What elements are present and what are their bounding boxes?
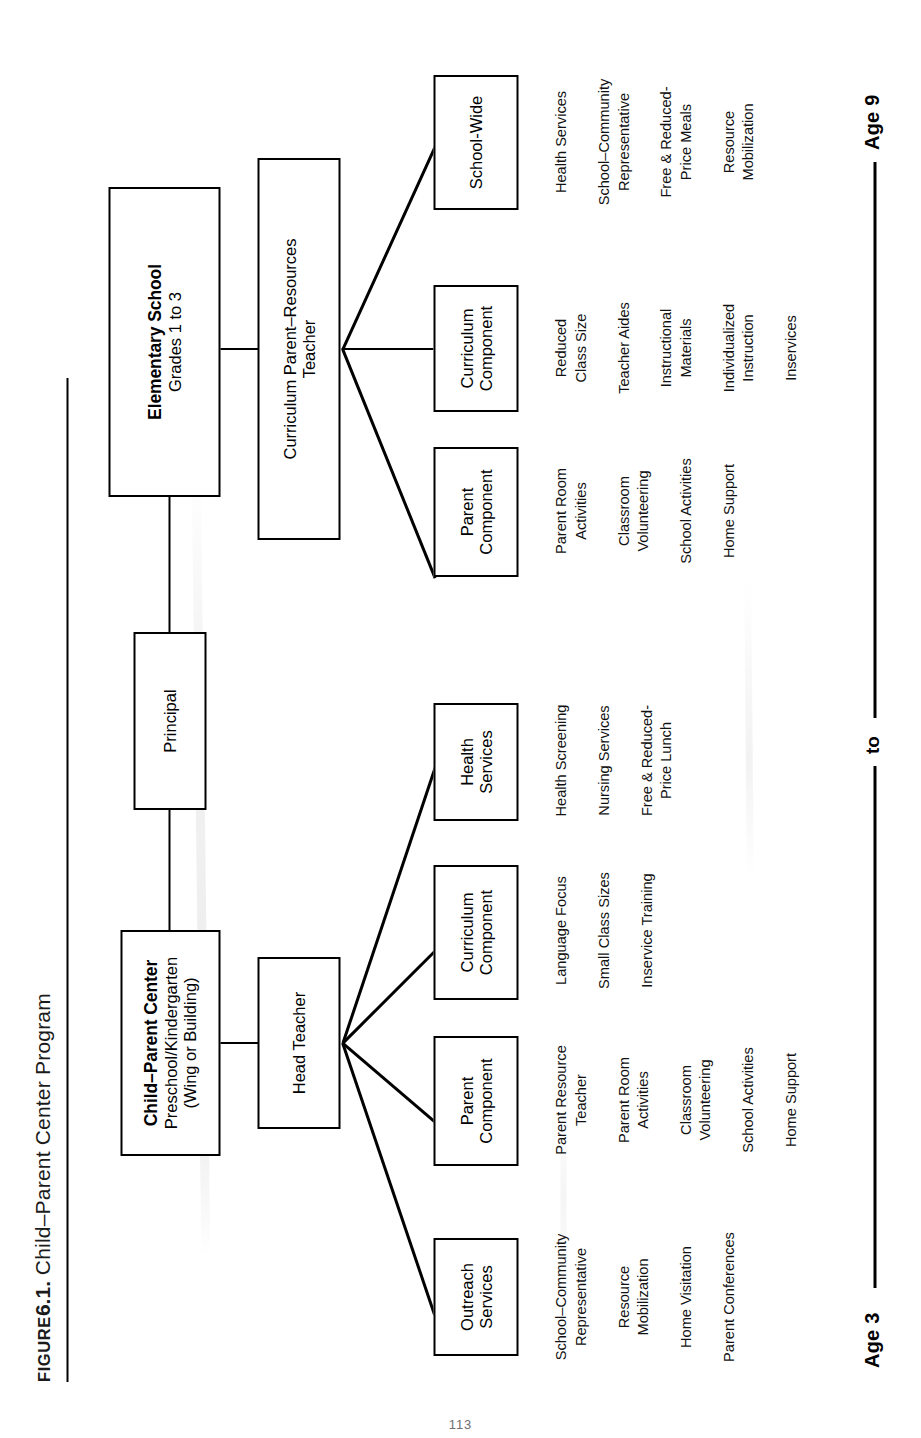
curriculum-component-elementary-details: Reduced Class Size Teacher Aides Instruc… (532, 262, 824, 434)
node-parent-component-elementary: Parent Component (433, 447, 518, 577)
connector-crt-curriculum-component (341, 348, 433, 350)
node-outreach-services: Outreach Services (433, 1238, 518, 1356)
principal-title: Principal (160, 689, 179, 752)
detail-item: Reduced Class Size (551, 262, 590, 434)
cpc-subtitle-1: Preschool/Kindergarten (161, 957, 180, 1129)
parent-component-elementary-details: Parent Room Activities Classroom Volunte… (532, 420, 761, 602)
detail-item: Classroom Volunteering (614, 420, 653, 602)
node-health-services: Health Services (433, 703, 518, 821)
age-end-label: Age 9 (860, 95, 883, 150)
outreach-services-title-2: Services (476, 1265, 495, 1328)
detail-item: School–Community Representative (551, 1202, 590, 1392)
figure-number: 6.1. (30, 1281, 53, 1316)
scan-artifact (744, 578, 754, 878)
connector-crt-school-wide (341, 146, 436, 350)
connector-elementary-crt (220, 348, 258, 350)
detail-item: Health Services (551, 48, 570, 236)
connector-crt-parent-component (341, 349, 436, 579)
parent-component-cpc-details: Parent Resource Teacher Parent Room Acti… (532, 1007, 824, 1193)
elementary-title: Elementary School (145, 264, 165, 420)
detail-item: Language Focus (551, 843, 570, 1018)
detail-item: Parent Room Activities (614, 1007, 653, 1193)
node-school-wide: School-Wide (433, 75, 518, 210)
timeline-segment-right (873, 162, 876, 718)
detail-item: Individualized Instruction (719, 262, 758, 434)
cpc-subtitle-2: (Wing or Building) (180, 977, 199, 1108)
detail-item: Classroom Volunteering (676, 1007, 715, 1193)
node-curriculum-parent-resources-teacher: Curriculum Parent–Resources Teacher (257, 158, 340, 540)
cpc-title: Child–Parent Center (141, 960, 161, 1126)
node-child-parent-center: Child–Parent Center Preschool/Kindergart… (120, 930, 220, 1156)
figure-caption-text: Child–Parent Center Program (30, 993, 53, 1275)
parent-component-elem-title-1: Parent (457, 488, 476, 537)
detail-item: Inservices (781, 262, 800, 434)
curriculum-component-elem-title-1: Curriculum (457, 309, 476, 389)
detail-item: Nursing Services (594, 678, 613, 843)
node-principal: Principal (133, 632, 206, 810)
parent-component-cpc-title-2: Component (476, 1058, 495, 1143)
detail-item: Inservice Training (637, 843, 656, 1018)
caption-rule (66, 378, 68, 1382)
detail-item: Parent Conferences (719, 1202, 738, 1392)
school-wide-details: Health Services School–Community Represe… (532, 48, 781, 236)
curriculum-component-cpc-title-2: Component (476, 890, 495, 975)
detail-item: Instructional Materials (656, 262, 695, 434)
age-timeline: Age 3 to Age 9 (860, 68, 890, 1368)
detail-item: Home Visitation (676, 1202, 695, 1392)
crt-title-line-2: Teacher (299, 320, 318, 379)
curriculum-component-elem-title-2: Component (476, 306, 495, 391)
detail-item: Small Class Sizes (594, 843, 613, 1018)
health-services-title-1: Health (457, 738, 476, 786)
parent-component-cpc-title-1: Parent (457, 1077, 476, 1126)
outreach-services-details: School–Community Representative Resource… (532, 1202, 761, 1392)
detail-item: School Activities (676, 420, 695, 602)
detail-item: Resource Mobilization (614, 1202, 653, 1392)
figure-caption: Figure6.1. Child–Parent Center Program (30, 382, 54, 1382)
detail-item: Home Support (781, 1007, 800, 1193)
detail-item: Teacher Aides (614, 262, 633, 434)
connector-ht-health-services (341, 766, 436, 1044)
health-services-title-2: Services (476, 730, 495, 793)
node-parent-component-cpc: Parent Component (433, 1036, 518, 1166)
detail-item: School Activities (738, 1007, 757, 1193)
detail-item: Health Screening (551, 678, 570, 843)
health-services-details: Health Screening Nursing Services Free &… (532, 678, 699, 843)
node-curriculum-component-cpc: Curriculum Component (433, 865, 518, 1000)
node-elementary-school: Elementary School Grades 1 to 3 (108, 187, 220, 497)
node-head-teacher: Head Teacher (257, 957, 340, 1129)
figure-page: Figure6.1. Child–Parent Center Program C… (0, 0, 921, 1438)
elementary-subtitle: Grades 1 to 3 (165, 292, 184, 392)
figure-label: Figure (34, 1316, 52, 1382)
detail-item: Free & Reduced- Price Lunch (637, 678, 676, 843)
timeline-segment-left (873, 766, 876, 1288)
detail-item: Parent Resource Teacher (551, 1007, 590, 1193)
outreach-services-title-1: Outreach (457, 1263, 476, 1331)
detail-item: Home Support (719, 420, 738, 602)
curriculum-component-cpc-details: Language Focus Small Class Sizes Inservi… (532, 843, 680, 1018)
detail-item: Free & Reduced- Price Meals (656, 48, 695, 236)
age-mid-label: to (861, 736, 883, 754)
school-wide-title-1: School-Wide (466, 96, 485, 190)
detail-item: School–Community Representative (594, 48, 633, 236)
connector-ht-curriculum-component (341, 950, 435, 1044)
connector-cpc-principal (168, 808, 170, 930)
parent-component-elem-title-2: Component (476, 469, 495, 554)
connector-principal-elementary (168, 495, 170, 634)
crt-title-line-1: Curriculum Parent–Resources (280, 239, 299, 460)
connector-cpc-head-teacher (220, 1042, 258, 1044)
head-teacher-title: Head Teacher (289, 992, 308, 1094)
detail-item: Parent Room Activities (551, 420, 590, 602)
curriculum-component-cpc-title-1: Curriculum (457, 893, 476, 973)
page-folio: 113 (0, 1417, 921, 1432)
node-curriculum-component-elementary: Curriculum Component (433, 285, 518, 412)
detail-item: Resource Mobilization (719, 48, 758, 236)
age-start-label: Age 3 (860, 1313, 883, 1368)
